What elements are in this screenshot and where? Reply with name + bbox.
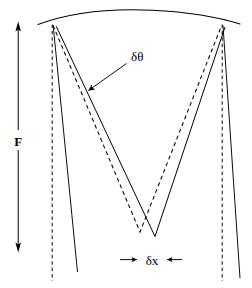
delta-x-label: δx bbox=[146, 253, 159, 268]
left-outer-solid-line bbox=[53, 26, 77, 273]
top-arc bbox=[38, 10, 240, 25]
delta-x-group: δx bbox=[120, 253, 182, 268]
right-outer-solid-line bbox=[223, 26, 240, 279]
delta-theta-group: δθ bbox=[89, 49, 144, 91]
force-arrow-group: F bbox=[10, 22, 27, 253]
beam-deflection-diagram: F δθ δx bbox=[0, 0, 252, 288]
figure-container: F δθ δx bbox=[0, 0, 252, 288]
delta-theta-label: δθ bbox=[131, 49, 143, 64]
delta-theta-leader-line bbox=[89, 64, 127, 91]
force-label: F bbox=[14, 134, 22, 149]
